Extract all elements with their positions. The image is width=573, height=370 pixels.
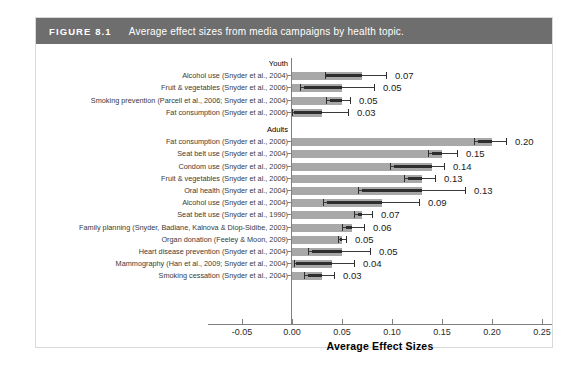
chart-row-label: Fruit & vegetables (Snyder et al., 2006) bbox=[161, 82, 288, 94]
error-bar-box bbox=[358, 213, 362, 216]
x-axis-tick bbox=[392, 319, 393, 324]
x-axis-tick bbox=[492, 319, 493, 324]
error-bar-box bbox=[394, 165, 432, 168]
figure-header: FIGURE 8.1 Average effect sizes from med… bbox=[36, 18, 552, 44]
chart-group-heading: Youth bbox=[36, 58, 552, 70]
figure-number: FIGURE 8.1 bbox=[49, 26, 112, 37]
error-bar-cap-high bbox=[348, 109, 349, 116]
bar-value-label: 0.20 bbox=[515, 136, 534, 148]
error-bar-cap-low bbox=[325, 72, 326, 79]
chart-bar bbox=[292, 150, 442, 158]
y-axis-tick bbox=[287, 275, 291, 276]
y-axis-tick bbox=[287, 75, 291, 76]
error-bar-cap-low bbox=[428, 150, 429, 157]
chart-row: Seat belt use (Snyder et al., 1990)0.07 bbox=[36, 209, 552, 221]
error-bar-box bbox=[432, 152, 442, 155]
error-bar-cap-low bbox=[294, 260, 295, 267]
chart-row: Fruit & vegetables (Snyder et al., 2006)… bbox=[36, 173, 552, 185]
x-axis-tick-label: 0.25 bbox=[519, 327, 565, 337]
error-bar-cap-high bbox=[506, 138, 507, 145]
y-axis-tick bbox=[287, 112, 291, 113]
bar-value-label: 0.14 bbox=[453, 161, 472, 173]
error-bar-cap-low bbox=[323, 199, 324, 206]
bar-value-label: 0.07 bbox=[395, 70, 414, 82]
chart-row-label: Alcohol use (Snyder et al., 2004) bbox=[182, 70, 288, 82]
error-bar-cap-high bbox=[435, 175, 436, 182]
x-axis-tick-label: 0.20 bbox=[469, 327, 515, 337]
chart-row-label: Smoking prevention (Parcell et al., 2006… bbox=[91, 95, 288, 107]
chart-row-label: Fat consumption (Snyder et al., 2006) bbox=[166, 136, 288, 148]
x-axis-tick bbox=[242, 319, 243, 324]
bar-value-label: 0.13 bbox=[444, 173, 463, 185]
error-bar-cap-low bbox=[304, 272, 305, 279]
x-axis-tick-label: 0.10 bbox=[369, 327, 415, 337]
x-axis-tick bbox=[542, 319, 543, 324]
y-axis-tick bbox=[287, 141, 291, 142]
x-axis-line bbox=[208, 324, 552, 325]
bar-value-label: 0.03 bbox=[343, 270, 362, 282]
error-bar-cap-low bbox=[404, 175, 405, 182]
error-bar-cap-high bbox=[465, 187, 466, 194]
figure-container: FIGURE 8.1 Average effect sizes from med… bbox=[35, 17, 553, 348]
error-bar-box bbox=[327, 201, 382, 204]
error-bar-cap-low bbox=[474, 138, 475, 145]
chart-row: Fat consumption (Snyder et al., 2006)0.0… bbox=[36, 107, 552, 119]
error-bar-cap-high bbox=[334, 272, 335, 279]
error-bar-cap-high bbox=[370, 248, 371, 255]
x-axis-tick bbox=[342, 319, 343, 324]
error-bar-box bbox=[312, 250, 342, 253]
chart-row-label: Seat belt use (Snyder et al., 2004) bbox=[177, 148, 288, 160]
chart-bar bbox=[292, 236, 342, 244]
error-bar-cap-low bbox=[308, 248, 309, 255]
chart-group-heading: Adults bbox=[36, 124, 552, 136]
chart-row: Seat belt use (Snyder et al., 2004)0.15 bbox=[36, 148, 552, 160]
x-axis-tick-label: 0.05 bbox=[319, 327, 365, 337]
error-bar-cap-low bbox=[292, 109, 293, 116]
chart-row: Smoking cessation (Snyder et al., 2004)0… bbox=[36, 270, 552, 282]
error-bar-box bbox=[346, 226, 352, 229]
chart-row: Condom use (Snyder et al., 2009)0.14 bbox=[36, 161, 552, 173]
y-axis-tick bbox=[287, 227, 291, 228]
x-axis-tick-label: 0.15 bbox=[419, 327, 465, 337]
error-bar-cap-low bbox=[390, 163, 391, 170]
chart-bar bbox=[292, 224, 352, 232]
error-bar-cap-high bbox=[374, 84, 375, 91]
y-axis-tick bbox=[287, 178, 291, 179]
bar-value-label: 0.05 bbox=[379, 246, 398, 258]
y-axis-tick bbox=[287, 202, 291, 203]
error-bar-cap-high bbox=[444, 163, 445, 170]
chart-row: Fat consumption (Snyder et al., 2006)0.2… bbox=[36, 136, 552, 148]
x-axis-tick bbox=[442, 319, 443, 324]
chart-row-label: Alcohol use (Snyder et al., 2004) bbox=[182, 197, 288, 209]
y-axis-tick bbox=[287, 263, 291, 264]
chart-row: Mammography (Han et al., 2009; Snyder et… bbox=[36, 258, 552, 270]
y-axis-tick bbox=[287, 153, 291, 154]
chart-row-label: Fruit & vegetables (Snyder et al., 2006) bbox=[161, 173, 288, 185]
chart-row: Oral health (Snyder et al., 2004)0.13 bbox=[36, 185, 552, 197]
y-axis-tick bbox=[287, 214, 291, 215]
chart-row-label: Family planning (Snyder, Badiane, Kalnov… bbox=[79, 222, 288, 234]
bar-value-label: 0.09 bbox=[428, 197, 447, 209]
chart-row: Alcohol use (Snyder et al., 2004)0.09 bbox=[36, 197, 552, 209]
error-bar-cap-low bbox=[338, 236, 339, 243]
error-bar-box bbox=[408, 177, 422, 180]
chart-row-label: Smoking cessation (Snyder et al., 2004) bbox=[159, 270, 288, 282]
chart-row: Heart disease prevention (Snyder et al.,… bbox=[36, 246, 552, 258]
chart-bar bbox=[292, 138, 492, 146]
bar-value-label: 0.06 bbox=[373, 222, 392, 234]
bar-value-label: 0.05 bbox=[355, 234, 374, 246]
y-axis-tick bbox=[287, 239, 291, 240]
x-axis-title: Average Effect Sizes bbox=[208, 340, 552, 352]
chart-row: Fruit & vegetables (Snyder et al., 2006)… bbox=[36, 82, 552, 94]
error-bar-box bbox=[296, 262, 332, 265]
chart-bar bbox=[292, 175, 422, 183]
x-axis-tick-label: -0.05 bbox=[219, 327, 265, 337]
chart-row-label: Condom use (Snyder et al., 2009) bbox=[178, 161, 288, 173]
chart-row-label: Fat consumption (Snyder et al., 2006) bbox=[166, 107, 288, 119]
group-label: Adults bbox=[267, 124, 288, 136]
x-axis-tick bbox=[292, 319, 293, 324]
error-bar-cap-low bbox=[354, 211, 355, 218]
y-axis-tick bbox=[287, 251, 291, 252]
y-axis-tick bbox=[287, 190, 291, 191]
chart-row: Alcohol use (Snyder et al., 2004)0.07 bbox=[36, 70, 552, 82]
